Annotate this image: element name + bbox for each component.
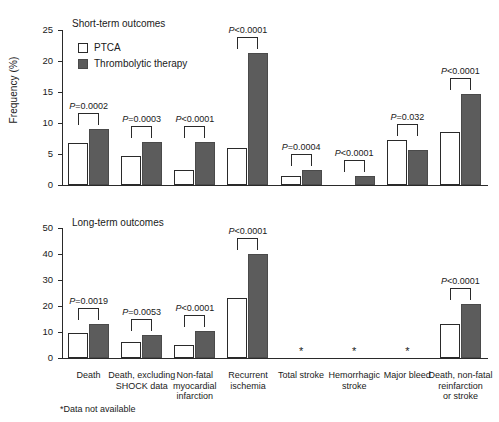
y-axis-tick xyxy=(58,185,62,186)
y-axis-tick xyxy=(58,358,62,359)
p-value-label: P<0.0001 xyxy=(150,114,240,124)
x-axis-label-line: Death, non-fatal xyxy=(426,370,495,381)
bar-thrombolytic xyxy=(302,170,322,185)
bar-thrombolytic xyxy=(142,142,162,185)
x-axis-label-line: or stroke xyxy=(426,391,495,402)
plot-area-long-term xyxy=(62,228,487,358)
bar-ptca xyxy=(227,148,247,185)
y-axis-tick-label: 40 xyxy=(29,248,53,259)
bar-ptca xyxy=(121,342,141,358)
bar-thrombolytic xyxy=(355,176,375,185)
missing-data-marker: * xyxy=(293,345,309,357)
bar-thrombolytic xyxy=(142,335,162,358)
x-axis-label-line: stroke xyxy=(320,381,389,392)
bar-ptca xyxy=(281,176,301,185)
x-axis-label-line: ischemia xyxy=(213,381,282,392)
y-axis-tick-label: 10 xyxy=(29,326,53,337)
y-axis-tick xyxy=(58,123,62,124)
panel-long-term-outcomes: Long-term outcomes 01020304050P=0.0019P=… xyxy=(0,205,499,365)
p-value-label: P=0.0002 xyxy=(44,101,134,111)
significance-bracket xyxy=(131,319,152,331)
bar-ptca xyxy=(440,324,460,358)
bar-ptca xyxy=(68,143,88,185)
y-axis-tick xyxy=(58,30,62,31)
y-axis-tick-label: 5 xyxy=(29,148,53,159)
y-axis-tick-label: 20 xyxy=(29,55,53,66)
bar-ptca xyxy=(174,170,194,185)
p-value-label: P<0.0001 xyxy=(415,276,499,286)
bar-thrombolytic xyxy=(195,142,215,185)
panel-short-term-outcomes: Short-term outcomes PTCA Thrombolytic th… xyxy=(0,0,499,200)
bar-thrombolytic xyxy=(89,129,109,185)
significance-bracket xyxy=(184,315,205,327)
y-axis-tick-label: 50 xyxy=(29,222,53,233)
significance-bracket xyxy=(397,124,418,136)
y-axis-tick-label: 25 xyxy=(29,24,53,35)
x-axis-label-line: reinfarction xyxy=(426,381,495,392)
bar-thrombolytic xyxy=(408,150,428,185)
p-value-label: P<0.0001 xyxy=(150,303,240,313)
y-axis-tick xyxy=(58,332,62,333)
p-value-label: P<0.0001 xyxy=(415,66,499,76)
p-value-label: P<0.0001 xyxy=(203,226,293,236)
bar-ptca xyxy=(121,156,141,185)
bar-thrombolytic xyxy=(461,94,481,185)
bar-thrombolytic xyxy=(461,304,481,358)
y-axis-tick xyxy=(58,280,62,281)
bar-ptca xyxy=(68,333,88,358)
significance-bracket xyxy=(450,288,471,300)
missing-data-marker: * xyxy=(399,345,415,357)
bar-thrombolytic xyxy=(248,254,268,358)
y-axis-tick-label: 15 xyxy=(29,86,53,97)
y-axis-tick-label: 0 xyxy=(29,179,53,190)
significance-bracket xyxy=(344,160,365,172)
y-axis-tick-label: 0 xyxy=(29,352,53,363)
p-value-label: P=0.0019 xyxy=(44,296,134,306)
p-value-label: P<0.0001 xyxy=(309,148,399,158)
significance-bracket xyxy=(184,126,205,138)
x-axis-line xyxy=(62,358,488,359)
x-axis-label-line: infarction xyxy=(160,391,229,402)
significance-bracket xyxy=(450,78,471,90)
significance-bracket xyxy=(237,37,258,49)
bar-thrombolytic xyxy=(195,331,215,358)
x-axis-line xyxy=(62,185,488,186)
figure-bar-chart-outcomes: Frequency (%) Short-term outcomes PTCA T… xyxy=(0,0,499,422)
footnote-data-not-available: *Data not available xyxy=(60,404,136,414)
significance-bracket xyxy=(237,238,258,250)
panel-title-short-term: Short-term outcomes xyxy=(72,18,165,29)
bar-ptca xyxy=(387,140,407,185)
y-axis-tick xyxy=(58,254,62,255)
y-axis-tick-label: 10 xyxy=(29,117,53,128)
y-axis-tick xyxy=(58,154,62,155)
bar-thrombolytic xyxy=(89,324,109,358)
bar-ptca xyxy=(174,345,194,358)
y-axis-line xyxy=(62,228,63,359)
missing-data-marker: * xyxy=(346,345,362,357)
significance-bracket xyxy=(131,126,152,138)
y-axis-tick xyxy=(58,61,62,62)
x-axis-label-7: Death, non-fatalreinfarctionor stroke xyxy=(426,370,495,402)
panel-title-long-term: Long-term outcomes xyxy=(72,217,164,228)
y-axis-tick xyxy=(58,228,62,229)
p-value-label: P=0.032 xyxy=(362,112,452,122)
y-axis-tick xyxy=(58,92,62,93)
p-value-label: P<0.0001 xyxy=(203,25,293,35)
bar-ptca xyxy=(440,132,460,185)
bar-thrombolytic xyxy=(248,53,268,185)
y-axis-tick-label: 30 xyxy=(29,274,53,285)
